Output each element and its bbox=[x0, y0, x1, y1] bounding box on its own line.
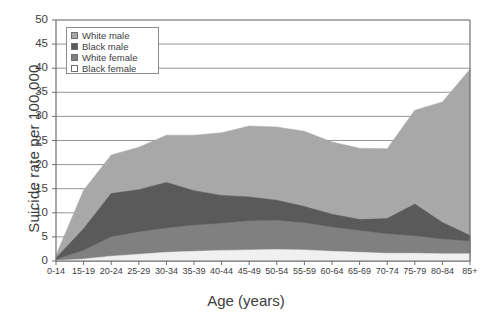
legend-swatch-white-male bbox=[71, 32, 78, 39]
legend-item-black-female: Black female bbox=[71, 63, 155, 74]
stacked-area-chart: Suicide rate per 100,000 Age (years) 051… bbox=[0, 0, 492, 325]
y-tick-label: 10 bbox=[18, 206, 48, 218]
y-tick-label: 0 bbox=[18, 254, 48, 266]
legend-swatch-black-female bbox=[71, 65, 78, 72]
legend-label-white-female: White female bbox=[82, 52, 137, 63]
legend-swatch-black-male bbox=[71, 43, 78, 50]
chart-legend: White male Black male White female Black… bbox=[66, 27, 159, 74]
y-tick-label: 50 bbox=[18, 13, 48, 25]
legend-item-white-male: White male bbox=[71, 30, 155, 41]
legend-label-black-male: Black male bbox=[82, 41, 128, 52]
legend-label-black-female: Black female bbox=[82, 63, 136, 74]
y-tick-label: 35 bbox=[18, 85, 48, 97]
legend-item-black-male: Black male bbox=[71, 41, 155, 52]
y-tick-label: 45 bbox=[18, 37, 48, 49]
legend-item-white-female: White female bbox=[71, 52, 155, 63]
y-tick-label: 5 bbox=[18, 230, 48, 242]
y-tick-label: 20 bbox=[18, 158, 48, 170]
y-tick-label: 25 bbox=[18, 134, 48, 146]
x-tick-label: 85+ bbox=[454, 266, 486, 276]
y-tick-label: 40 bbox=[18, 61, 48, 73]
legend-swatch-white-female bbox=[71, 54, 78, 61]
y-tick-label: 15 bbox=[18, 182, 48, 194]
legend-label-white-male: White male bbox=[82, 30, 130, 41]
y-tick-label: 30 bbox=[18, 109, 48, 121]
